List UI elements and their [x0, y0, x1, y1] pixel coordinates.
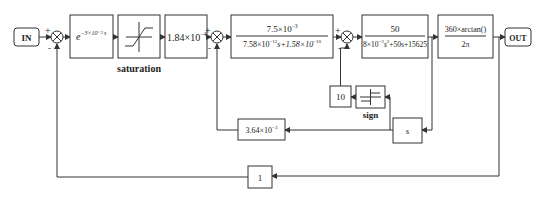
svg-text:saturation: saturation [117, 63, 161, 74]
svg-text:-: - [208, 43, 211, 53]
block-diagram: IN + - e−3×10⁻³ s saturation 1.84×10−4 +… [0, 0, 545, 199]
svg-text:2π: 2π [461, 40, 469, 49]
svg-text:360×arctan(): 360×arctan() [445, 25, 487, 34]
unity-gain-block[interactable]: 1 [248, 166, 272, 188]
svg-text:50: 50 [391, 24, 401, 34]
transfer-function-1[interactable]: 7.5×10−3 7.58×10−12s+1.58×10−10 [231, 15, 333, 58]
gain-block-10[interactable]: 10 [330, 86, 351, 107]
svg-text:7.58×10−12s+1.58×10−10: 7.58×10−12s+1.58×10−10 [243, 39, 322, 49]
transfer-function-2[interactable]: 50 8×10−3s2+50s+15625 [362, 15, 428, 58]
svg-text:IN: IN [21, 33, 32, 43]
input-port[interactable]: IN [14, 28, 39, 46]
svg-text:+: + [205, 25, 211, 36]
gain-block-1[interactable]: 1.84×10−4 [165, 15, 207, 58]
derivative-block[interactable]: s [393, 118, 422, 143]
sum-junction-3: + - [335, 25, 353, 53]
svg-text:-: - [48, 43, 51, 53]
sum-junction-1: + - [45, 25, 63, 53]
svg-text:OUT: OUT [509, 34, 527, 43]
svg-text:+: + [45, 25, 51, 36]
sum-junction-2: + - [205, 25, 223, 53]
svg-text:10: 10 [336, 92, 346, 102]
svg-text:s: s [406, 126, 410, 136]
svg-text:sign: sign [363, 110, 379, 120]
svg-text:1: 1 [258, 173, 263, 183]
sign-block[interactable]: sign [356, 86, 385, 120]
arctan-block[interactable]: 360×arctan() 2π [438, 15, 493, 58]
svg-text:8×10−3s2+50s+15625: 8×10−3s2+50s+15625 [363, 39, 427, 49]
gain-block-3[interactable]: 3.64×10−3 [238, 119, 285, 140]
output-port[interactable]: OUT [505, 28, 531, 46]
delay-block[interactable]: e−3×10⁻³ s [70, 15, 113, 58]
svg-text:+: + [335, 25, 341, 36]
saturation-block[interactable]: saturation [117, 15, 161, 74]
